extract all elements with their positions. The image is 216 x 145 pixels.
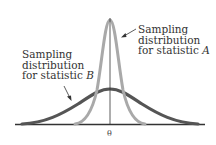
label-b-prefix: for statistic	[22, 69, 86, 81]
label-statistic-a: Sampling distribution for statistic A	[138, 24, 210, 56]
arrowhead-b	[67, 96, 72, 102]
label-b-line1: Sampling	[22, 49, 94, 60]
arrowhead-a	[121, 33, 127, 38]
stat-b: B	[86, 69, 94, 81]
label-a-line3: for statistic A	[138, 45, 210, 56]
theta-label: θ	[107, 129, 112, 138]
label-b-line3: for statistic B	[22, 70, 94, 81]
label-statistic-b: Sampling distribution for statistic B	[22, 49, 94, 81]
stat-a: A	[202, 44, 210, 56]
label-a-prefix: for statistic	[138, 44, 202, 56]
label-a-line1: Sampling	[138, 24, 210, 35]
